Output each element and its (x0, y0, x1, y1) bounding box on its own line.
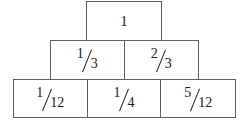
fraction-two-thirds: 23 (151, 49, 172, 71)
fraction-one-third: 13 (77, 49, 98, 71)
fraction-denominator: 4 (128, 95, 135, 110)
pyramid-cell-one-twelfth: 112 (14, 80, 88, 117)
pyramid-cell-whole: 1 (86, 1, 162, 41)
pyramid-cell-five-twelfths: 512 (161, 80, 235, 117)
fraction-denominator: 3 (91, 56, 98, 71)
fraction-denominator: 12 (50, 95, 64, 110)
fraction-one-twelfth: 112 (36, 88, 64, 110)
fraction-denominator: 12 (198, 95, 212, 110)
pyramid-cell-two-thirds: 23 (125, 41, 199, 79)
pyramid-cell-one-third: 13 (51, 41, 125, 79)
pyramid-cell-one-quarter: 14 (88, 80, 162, 117)
fraction-denominator: 3 (165, 56, 172, 71)
fraction-five-twelfths: 512 (184, 88, 212, 110)
pyramid-row-middle: 13 23 (50, 40, 199, 80)
pyramid-row-bottom: 112 14 512 (13, 79, 236, 118)
fraction-pyramid-diagram: 1 13 23 112 14 512 (0, 0, 247, 122)
fraction-one-quarter: 14 (114, 88, 135, 110)
fraction-value-1: 1 (120, 14, 128, 29)
